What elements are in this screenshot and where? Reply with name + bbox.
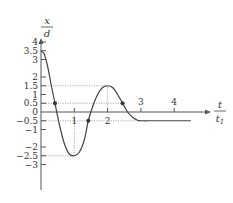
marked-point bbox=[53, 101, 57, 105]
marked-point bbox=[86, 119, 90, 123]
y-label-denominator: d bbox=[44, 28, 50, 39]
reference-lines bbox=[41, 86, 141, 156]
x-tick-label: 4 bbox=[171, 97, 177, 107]
y-tick-label: −1 bbox=[25, 125, 38, 135]
axes bbox=[39, 38, 212, 190]
marked-point bbox=[121, 101, 125, 105]
chart: 43.5321.510.50−0.5−1−2−2.5−31234 x d t t… bbox=[0, 0, 233, 203]
x-label-denominator: t1 bbox=[216, 113, 225, 126]
y-label-numerator: x bbox=[44, 15, 50, 26]
x-tick-label: 1 bbox=[71, 116, 77, 126]
x-axis-arrow-icon bbox=[205, 110, 211, 115]
x-tick-label: 2 bbox=[105, 116, 111, 126]
x-tick-label: 3 bbox=[138, 97, 144, 107]
x-label-numerator: t bbox=[218, 99, 223, 110]
y-tick-label: 3 bbox=[32, 55, 38, 65]
y-tick-label: −3 bbox=[25, 160, 39, 170]
y-axis-arrow-icon bbox=[39, 38, 44, 44]
